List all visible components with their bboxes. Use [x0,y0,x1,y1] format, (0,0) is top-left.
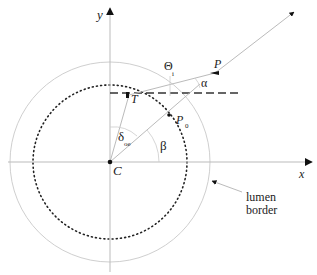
label-alpha: α [201,76,208,90]
point-c [108,160,113,165]
label-p: P [213,57,222,71]
label-p0: P [175,113,184,127]
label-t: T [131,92,139,106]
point-t [126,92,129,98]
lumen-border-pointer [212,181,242,192]
y-axis-label: y [95,7,103,22]
label-p0-sub: 0 [185,122,189,130]
label-delta-sub: oe [124,140,131,148]
label-beta: β [160,138,167,153]
x-axis-label: x [298,167,305,181]
ray-p [215,12,294,73]
point-p0 [167,113,171,117]
annotation-border: border [246,203,277,217]
label-c: C [113,163,122,178]
annotation-lumen: lumen [246,190,276,204]
label-theta-sub: i [172,70,174,78]
beta-arc [147,130,159,162]
geometry-diagram: y x C T P P 0 Θ i α β δ oe lumen border [0,0,317,275]
